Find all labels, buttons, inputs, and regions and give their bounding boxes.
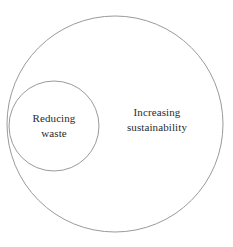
outer-circle-label-line-1: Increasing	[105, 105, 210, 120]
inner-circle-label: Reducing waste	[0, 111, 108, 141]
inner-circle-label-line-2: waste	[0, 126, 108, 141]
outer-circle-label-line-2: sustainability	[105, 120, 210, 135]
inner-circle-label-line-1: Reducing	[0, 111, 108, 126]
outer-circle-label: Increasing sustainability	[105, 105, 210, 135]
diagram-canvas: Reducing waste Increasing sustainability	[0, 0, 233, 247]
